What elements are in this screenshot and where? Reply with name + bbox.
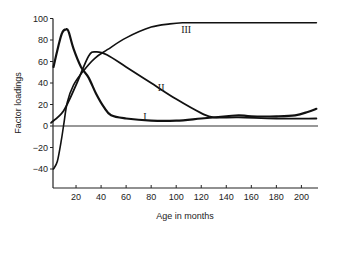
x-tick-label: 60 bbox=[121, 192, 131, 202]
y-tick-label: −20 bbox=[33, 143, 48, 153]
curve-label-ii: II bbox=[158, 82, 165, 93]
x-tick-label: 80 bbox=[146, 192, 156, 202]
curves bbox=[51, 23, 316, 169]
axes: 100806040200−20−402040608010012014016018… bbox=[33, 14, 318, 203]
curve-i bbox=[54, 29, 317, 121]
x-tick-label: 160 bbox=[244, 192, 259, 202]
x-tick-label: 140 bbox=[219, 192, 234, 202]
x-tick-label: 20 bbox=[71, 192, 81, 202]
curve-labels: IIIIII bbox=[143, 24, 191, 122]
y-tick-label: 80 bbox=[38, 35, 48, 45]
y-tick-label: 0 bbox=[43, 121, 48, 131]
x-tick-label: 40 bbox=[96, 192, 106, 202]
x-axis-title: Age in months bbox=[156, 211, 214, 221]
y-tick-label: 60 bbox=[38, 57, 48, 67]
x-tick-label: 120 bbox=[194, 192, 209, 202]
y-tick-label: 20 bbox=[38, 100, 48, 110]
y-tick-label: −40 bbox=[33, 164, 48, 174]
y-tick-label: 100 bbox=[33, 14, 48, 24]
factor-loadings-chart: 100806040200−20−402040608010012014016018… bbox=[0, 0, 338, 265]
x-tick-label: 100 bbox=[169, 192, 184, 202]
curve-iii bbox=[54, 23, 317, 169]
x-tick-label: 200 bbox=[294, 192, 309, 202]
y-tick-label: 40 bbox=[38, 78, 48, 88]
curve-label-i: I bbox=[143, 111, 146, 122]
x-tick-label: 180 bbox=[269, 192, 284, 202]
curve-label-iii: III bbox=[181, 24, 191, 35]
y-axis-title: Factor loadings bbox=[13, 72, 23, 134]
